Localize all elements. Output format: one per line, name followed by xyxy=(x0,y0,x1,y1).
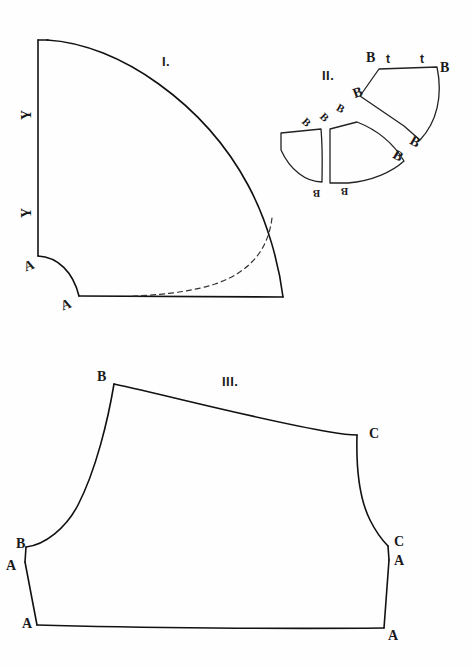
figure-three-numeral: III. xyxy=(222,374,238,389)
figure-one-outline xyxy=(38,40,283,297)
figure-two-numeral: II. xyxy=(322,68,334,83)
figure-one-label-y-lower: Y xyxy=(19,208,35,218)
figure-two-piece-left xyxy=(281,129,322,182)
figure-three-right-side-seam xyxy=(384,560,389,628)
figure-two-left-outline xyxy=(281,129,322,182)
figure-three-label-a-left-lower: A xyxy=(22,616,32,632)
figure-one-numeral: I. xyxy=(162,54,170,69)
figure-three-label-c-top: C xyxy=(369,426,379,442)
figure-two-label-t-right: t xyxy=(420,52,424,66)
figure-three-label-c-right: C xyxy=(394,534,404,550)
figure-three-right-short-edge xyxy=(388,546,389,560)
figure-three-label-b-left: B xyxy=(16,536,25,552)
pattern-plate: I. II. III. Y Y A A B t t B B B B B B B … xyxy=(0,0,472,667)
figure-three-label-a-left-upper: A xyxy=(6,558,16,574)
figure-three-label-a-right-upper: A xyxy=(394,553,404,569)
figure-two-label-b-top-right: B xyxy=(440,60,449,76)
figure-one-bottom-edge xyxy=(79,296,283,297)
figure-two-label-t-left: t xyxy=(386,52,390,66)
figure-three-outline xyxy=(25,384,389,628)
figure-three-bottom-hem xyxy=(37,625,384,628)
figure-one-dashed-guide xyxy=(133,218,272,296)
figure-three-label-b-top: B xyxy=(97,369,106,385)
figure-two-label-b-top-left: B xyxy=(366,50,375,66)
figure-three-top-edge xyxy=(114,384,357,435)
figure-one-outer-curve xyxy=(47,40,283,297)
figure-two-label-b-bottom-right: B xyxy=(341,186,348,198)
figure-one-notch-curve xyxy=(38,256,79,296)
figure-two-label-b-bottom-left: B xyxy=(313,188,320,200)
figure-three-left-armhole xyxy=(26,384,114,547)
figure-three-right-armhole xyxy=(357,435,388,546)
figure-three-label-a-right-lower: A xyxy=(388,628,398,644)
figure-one-label-y-upper: Y xyxy=(19,110,35,120)
